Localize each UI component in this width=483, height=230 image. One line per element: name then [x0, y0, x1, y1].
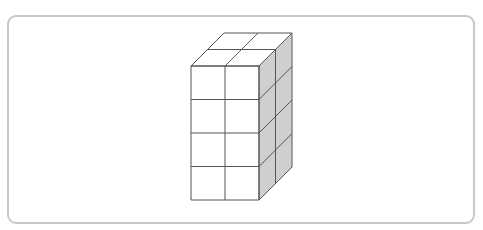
cuboid-diagram: [0, 0, 483, 230]
unit-cube-stack: [191, 33, 292, 200]
